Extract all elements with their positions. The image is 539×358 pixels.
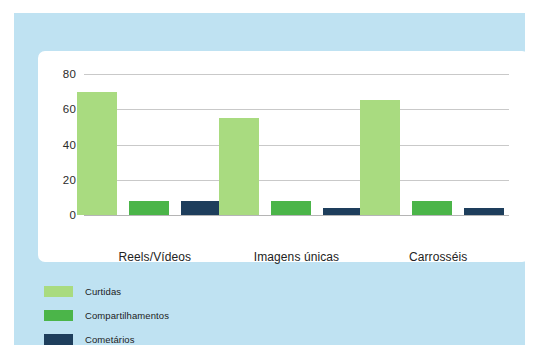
x-axis-category-label: Carrosséis — [409, 250, 467, 264]
bar-group — [77, 74, 221, 215]
y-tick-label-60: 60 — [63, 103, 76, 115]
chart-panel-background: 020406080 Reels/VídeosImagens únicasCarr… — [14, 13, 525, 345]
chart-figure: 020406080 Reels/VídeosImagens únicasCarr… — [0, 0, 539, 358]
chart-legend: CurtidasCompartilhamentosCometários — [44, 281, 344, 353]
legend-item-label: Compartilhamentos — [85, 310, 169, 321]
legend-item[interactable]: Curtidas — [44, 281, 344, 301]
bar[interactable] — [129, 201, 169, 215]
y-tick-label-20: 20 — [63, 174, 76, 186]
y-tick-label-40: 40 — [63, 139, 76, 151]
bar[interactable] — [323, 208, 363, 215]
y-tick-label-0: 0 — [69, 209, 76, 221]
plot-area: Reels/VídeosImagens únicasCarrosséis — [84, 74, 509, 215]
legend-item-label: Curtidas — [85, 286, 121, 297]
compartilhamentos-swatch — [44, 310, 73, 321]
legend-item[interactable]: Compartilhamentos — [44, 305, 344, 325]
gridline-0 — [84, 215, 509, 216]
bar-group — [360, 74, 504, 215]
bar[interactable] — [77, 92, 117, 215]
legend-item-label: Cometários — [85, 334, 135, 345]
chart-plot-card: 020406080 Reels/VídeosImagens únicasCarr… — [38, 51, 529, 262]
y-axis-tick-labels: 020406080 — [38, 74, 76, 215]
x-axis-category-label: Reels/Vídeos — [119, 250, 192, 264]
bar[interactable] — [360, 100, 400, 215]
bar[interactable] — [412, 201, 452, 215]
bar-group — [219, 74, 363, 215]
cometarios-swatch — [44, 334, 73, 345]
x-axis-category-label: Imagens únicas — [254, 250, 339, 264]
y-tick-label-80: 80 — [63, 68, 76, 80]
legend-item[interactable]: Cometários — [44, 329, 344, 349]
curtidas-swatch — [44, 286, 73, 297]
bar[interactable] — [219, 118, 259, 215]
bar[interactable] — [464, 208, 504, 215]
bar[interactable] — [271, 201, 311, 215]
bar[interactable] — [181, 201, 221, 215]
